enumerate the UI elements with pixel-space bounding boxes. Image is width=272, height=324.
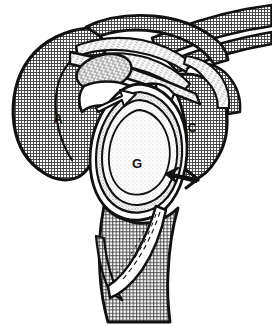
label-acromion: A [53,111,63,126]
scapula-lateral-diagram: A G C [0,0,272,324]
label-coracoid-base: C [188,121,197,135]
anatomical-figure: A G C [0,0,272,324]
label-glenoid: G [132,156,142,171]
